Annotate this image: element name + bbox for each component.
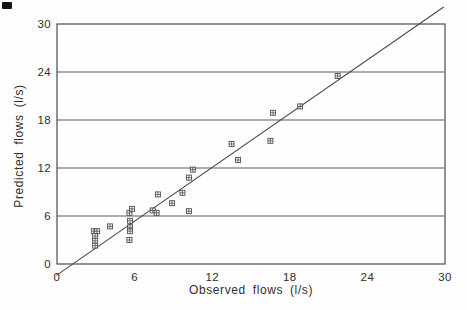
data-point-marker: [128, 218, 133, 223]
y-tick-label-6: 6: [44, 210, 51, 222]
x-axis-title: Observed flows (l/s): [57, 283, 445, 297]
data-point-marker: [186, 209, 191, 214]
y-tick-label-18: 18: [37, 114, 51, 126]
data-point-marker: [127, 238, 132, 243]
data-point-marker: [229, 142, 234, 147]
data-point-marker: [93, 238, 98, 243]
x-tick-label-6: 6: [131, 271, 138, 283]
data-point-marker: [93, 234, 98, 239]
x-tick-label-30: 30: [438, 271, 452, 283]
data-point-marker: [130, 206, 135, 211]
x-tick-label-12: 12: [205, 271, 219, 283]
data-point-marker: [128, 229, 133, 234]
x-tick-label-24: 24: [361, 271, 375, 283]
plot-svg: 06121824300612182430: [0, 0, 467, 310]
data-point-marker: [155, 192, 160, 197]
data-point-marker: [108, 224, 113, 229]
data-point-marker: [170, 201, 175, 206]
data-point-marker: [93, 243, 98, 248]
data-point-marker: [190, 167, 195, 172]
data-point-marker: [186, 175, 191, 180]
data-point-marker: [154, 210, 159, 215]
y-axis-title: Predicted flows (l/s): [12, 84, 26, 207]
data-point-marker: [95, 229, 100, 234]
x-tick-label-0: 0: [54, 271, 61, 283]
scan-artifact-mark: [2, 2, 12, 9]
plot-frame: [57, 24, 445, 264]
data-point-marker: [298, 104, 303, 109]
data-point-marker: [335, 74, 340, 79]
fit-line: [56, 7, 443, 275]
y-tick-label-30: 30: [37, 18, 51, 30]
y-tick-label-12: 12: [37, 162, 51, 174]
scatter-chart-figure: 06121824300612182430 Predicted flows (l/…: [0, 0, 467, 310]
data-point-marker: [268, 138, 273, 143]
data-point-marker: [236, 158, 241, 163]
y-tick-label-0: 0: [44, 258, 51, 270]
data-point-marker: [180, 190, 185, 195]
data-point-marker: [270, 110, 275, 115]
y-tick-label-24: 24: [37, 66, 51, 78]
x-tick-label-18: 18: [283, 271, 297, 283]
